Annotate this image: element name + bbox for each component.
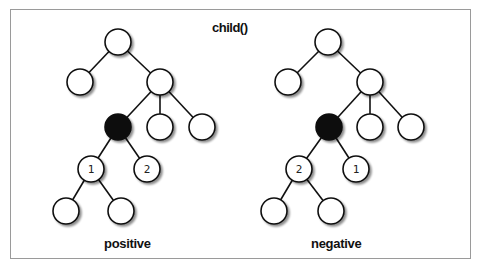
node-number: 1	[88, 163, 95, 176]
node	[67, 69, 93, 95]
tree-positive	[66, 42, 202, 211]
node-context	[105, 114, 131, 140]
node	[147, 69, 173, 95]
node	[261, 198, 287, 224]
node	[357, 114, 383, 140]
node-context	[316, 114, 342, 140]
node	[318, 198, 344, 224]
label-negative: negative	[311, 236, 361, 251]
label-positive: positive	[104, 236, 151, 251]
node	[275, 69, 301, 95]
node-root	[315, 29, 341, 55]
node-root	[105, 29, 131, 55]
node	[147, 114, 173, 140]
node	[357, 69, 383, 95]
node	[189, 114, 215, 140]
node-number: 2	[296, 163, 303, 176]
node-number: 2	[144, 163, 151, 176]
tree-diagrams: 1 2 2 1	[0, 0, 482, 276]
node-number: 1	[353, 163, 360, 176]
node	[53, 198, 79, 224]
node	[108, 198, 134, 224]
node	[398, 114, 424, 140]
